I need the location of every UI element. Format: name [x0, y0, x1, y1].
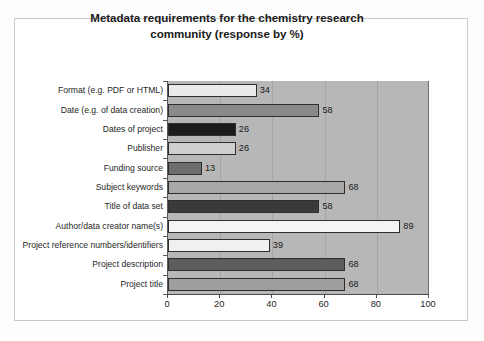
value-label: 34 [260, 85, 270, 96]
bar [168, 200, 319, 213]
value-label: 58 [322, 201, 332, 212]
category-label: Format (e.g. PDF or HTML) [58, 85, 163, 96]
bar [168, 239, 270, 252]
value-label: 39 [273, 240, 283, 251]
bar [168, 181, 345, 194]
y-tick [163, 139, 167, 140]
bar [168, 142, 236, 155]
value-label: 68 [348, 279, 358, 290]
bar [168, 220, 400, 233]
chart-title: Metadata requirements for the chemistry … [30, 10, 424, 41]
x-axis-line [167, 294, 429, 295]
x-tick-20 [219, 294, 220, 298]
plot-right-border [428, 81, 429, 294]
category-label: Project description [92, 259, 163, 270]
y-tick [163, 158, 167, 159]
x-tick-0 [167, 294, 168, 298]
y-tick [163, 236, 167, 237]
category-label: Author/data creator name(s) [56, 221, 163, 232]
value-label: 26 [239, 124, 249, 135]
x-tick-80 [376, 294, 377, 298]
bar [168, 278, 345, 291]
bar [168, 123, 236, 136]
y-axis-line [167, 81, 168, 294]
x-tick-100 [428, 294, 429, 298]
bar [168, 162, 202, 175]
y-tick [163, 275, 167, 276]
category-label: Project reference numbers/identifiers [23, 240, 163, 251]
chart-title-line-2: community (response by %) [30, 26, 424, 42]
value-label: 58 [322, 105, 332, 116]
value-label: 68 [348, 182, 358, 193]
category-label: Title of data set [105, 201, 163, 212]
x-tick-label: 40 [266, 299, 276, 309]
x-tick-label: 60 [318, 299, 328, 309]
value-label: 13 [205, 163, 215, 174]
x-tick-label: 80 [371, 299, 381, 309]
y-tick [163, 120, 167, 121]
category-label: Date (e.g. of data creation) [61, 105, 163, 116]
category-label: Publisher [127, 143, 163, 154]
x-tick-40 [271, 294, 272, 298]
category-label: Dates of project [103, 124, 163, 135]
y-tick [163, 178, 167, 179]
value-label: 68 [348, 259, 358, 270]
chart-title-line-1: Metadata requirements for the chemistry … [30, 10, 424, 26]
value-label: 89 [403, 221, 413, 232]
y-tick [163, 197, 167, 198]
plot-area [167, 81, 429, 294]
bar [168, 258, 345, 271]
category-label: Funding source [104, 163, 163, 174]
y-tick [163, 255, 167, 256]
y-tick [163, 81, 167, 82]
x-tick-label: 100 [420, 299, 436, 309]
x-tick-label: 0 [164, 299, 169, 309]
x-tick-60 [324, 294, 325, 298]
category-label: Subject keywords [96, 182, 163, 193]
x-tick-label: 20 [214, 299, 224, 309]
gridline-80 [377, 81, 378, 294]
value-label: 26 [239, 143, 249, 154]
category-label: Project title [120, 279, 163, 290]
y-tick [163, 217, 167, 218]
y-tick [163, 294, 167, 295]
bar [168, 104, 319, 117]
bar [168, 84, 257, 97]
y-tick [163, 100, 167, 101]
scanned-page: Metadata requirements for the chemistry … [0, 0, 484, 341]
